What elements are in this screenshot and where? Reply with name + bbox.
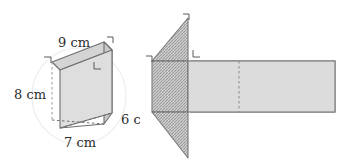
net-right-angle-mark-fold (193, 50, 200, 57)
figure-canvas: 9 cm 8 cm 7 cm 6 cm (0, 0, 342, 167)
geometry-figure: 9 cm 8 cm 7 cm 6 cm (0, 0, 342, 167)
net-rect-face-3 (290, 61, 335, 112)
triangular-prism-solid: 9 cm 8 cm 7 cm 6 cm (14, 35, 153, 150)
prism-net (140, 10, 335, 165)
label-left-height: 8 cm (14, 87, 46, 102)
net-rectangles-group (188, 61, 335, 112)
right-angle-mark-apex (107, 37, 113, 43)
net-panel-left-final (152, 61, 188, 112)
net-rect-face-2 (239, 61, 290, 112)
label-bottom-edge: 7 cm (64, 135, 96, 150)
label-top-edge: 9 cm (58, 35, 90, 50)
net-rect-face-1 (188, 61, 239, 112)
